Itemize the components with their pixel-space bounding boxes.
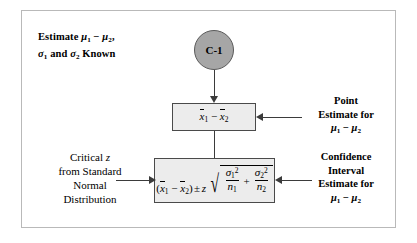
heading-line-2: σ1 and σ2 Known — [38, 47, 168, 64]
critical-z-annotation: Critical z from Standard Normal Distribu… — [40, 150, 140, 206]
ci-annotation-line-3: Estimate for — [303, 177, 389, 191]
critical-z-line-3: Normal — [40, 178, 140, 192]
start-node-label: C-1 — [205, 44, 222, 56]
arrowhead-left-icon — [256, 113, 263, 121]
connector-point-label-to-point-box — [262, 117, 302, 118]
point-annotation-line-2: Estimate for — [303, 108, 389, 122]
point-annotation-line-3: μ1 − μ2 — [303, 121, 389, 138]
confidence-interval-box[interactable]: (x1 − x2)±z√σ12n1+σ22n2 — [154, 158, 275, 203]
confidence-interval-formula: (x1 − x2)±z√σ12n1+σ22n2 — [156, 165, 272, 196]
connector-circle-to-point-box — [214, 70, 215, 96]
point-annotation-line-1: Point — [303, 94, 389, 108]
critical-z-line-1: Critical z — [40, 150, 140, 164]
start-node-c1[interactable]: C-1 — [194, 30, 234, 70]
critical-z-line-2: from Standard — [40, 164, 140, 178]
ci-annotation-line-4: μ1 − μ2 — [303, 191, 389, 208]
arrowhead-right-icon — [149, 176, 156, 184]
arrowhead-left-icon-2 — [275, 176, 282, 184]
critical-z-line-4: Distribution — [40, 192, 140, 206]
arrowhead-down-icon — [210, 96, 218, 103]
point-estimate-formula: x1 − x2 — [200, 110, 229, 124]
point-estimate-box[interactable]: x1 − x2 — [172, 103, 256, 131]
point-estimate-annotation: Point Estimate for μ1 − μ2 — [303, 94, 389, 138]
confidence-interval-annotation: Confidence Interval Estimate for μ1 − μ2 — [303, 150, 389, 208]
heading-block: Estimate μ1 − μ2, σ1 and σ2 Known — [38, 30, 168, 65]
ci-annotation-line-1: Confidence — [303, 150, 389, 164]
connector-point-box-to-ci-box — [214, 131, 215, 158]
heading-line-1: Estimate μ1 − μ2, — [38, 30, 168, 47]
ci-annotation-line-2: Interval — [303, 164, 389, 178]
diagram-canvas: Estimate μ1 − μ2, σ1 and σ2 Known C-1 x1… — [0, 0, 417, 243]
